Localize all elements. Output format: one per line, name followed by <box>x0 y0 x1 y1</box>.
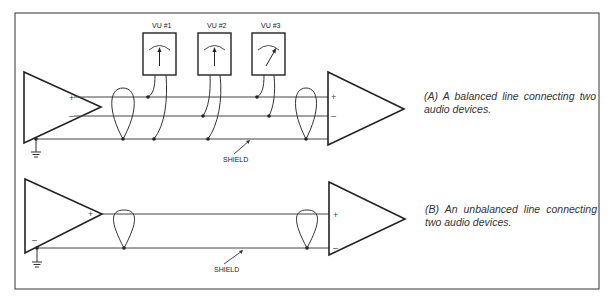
caption-a: (A) A balanced line connecting two audio… <box>424 90 596 116</box>
dest-a-plus-pin: + <box>331 92 336 102</box>
vu-meter-2: VU #2 <box>198 22 231 141</box>
panel-b-unbalanced-line: + – + – SHIELD <box>25 179 405 273</box>
shield-pointer-a <box>234 141 249 154</box>
twist-loop-right-a <box>296 88 317 139</box>
twist-loop-right-b <box>297 210 318 248</box>
vu-meter-1: VU #1 <box>143 22 176 141</box>
vu-meter-2-label: VU #2 <box>207 22 227 29</box>
twist-loop-left-a <box>112 88 135 139</box>
vu-meter-3: VU #3 <box>252 22 285 118</box>
junction-dot <box>121 137 125 141</box>
shield-label-a: SHIELD <box>223 156 248 163</box>
dest-a-minus-pin: – <box>331 111 336 121</box>
source-a-minus-pin: – <box>69 111 74 121</box>
ground-icon <box>31 139 41 157</box>
junction-dot <box>304 137 308 141</box>
vu-meter-1-label: VU #1 <box>152 22 172 29</box>
shield-pointer-b <box>224 251 242 264</box>
dest-b-plus-pin: + <box>333 210 338 220</box>
source-amplifier-a <box>24 72 101 143</box>
twist-loop-left-b <box>114 210 135 248</box>
ground-icon <box>32 248 42 267</box>
source-b-minus-pin: – <box>32 235 37 245</box>
caption-b: (B) An unbalanced line connecting two au… <box>425 203 597 229</box>
figure: + – VU #1 <box>0 0 612 299</box>
dest-b-minus-pin: – <box>333 243 338 253</box>
source-b-plus-pin: + <box>88 209 93 219</box>
destination-amplifier-a <box>328 72 404 145</box>
shield-label-b: SHIELD <box>214 266 239 273</box>
destination-amplifier-b <box>329 182 405 255</box>
source-a-plus-pin: + <box>69 93 74 103</box>
panel-a-balanced-line: + – VU #1 <box>24 22 404 163</box>
vu-meter-3-label: VU #3 <box>261 22 281 29</box>
diagram-svg: + – VU #1 <box>0 0 612 299</box>
